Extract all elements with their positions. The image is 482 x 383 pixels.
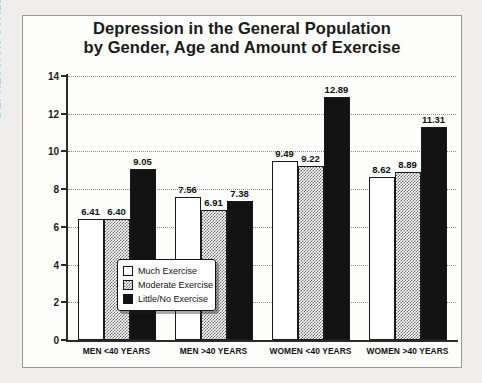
bar-value-label: 8.89 [398, 159, 417, 170]
bar-value-label: 8.62 [372, 164, 391, 175]
y-axis-tick-label: 4 [53, 259, 59, 270]
bar-value-label: 12.89 [325, 84, 349, 95]
y-axis-tick-label: 2 [53, 297, 59, 308]
bar-value-label: 9.05 [133, 156, 152, 167]
bar-moderate: 8.89 [395, 172, 421, 340]
y-axis-tick [61, 150, 68, 152]
bar-value-label: 7.38 [230, 188, 249, 199]
legend-item-little-no-exercise: Little/No Exercise [123, 292, 210, 306]
bar-little: 9.05 [130, 169, 156, 340]
bar-value-label: 6.91 [204, 197, 223, 208]
bar-much: 8.62 [369, 177, 395, 340]
chart-screenshot: Depression in the General Population by … [0, 0, 482, 383]
y-axis-tick-label: 6 [53, 221, 59, 232]
y-axis-tick-label: 14 [48, 71, 59, 82]
y-axis-tick [61, 75, 68, 77]
bar-value-label: 6.40 [107, 206, 126, 217]
legend-label-moderate-exercise: Moderate Exercise [138, 280, 213, 290]
y-axis-tick [61, 188, 68, 190]
y-axis-tick [61, 339, 68, 341]
bar-moderate: 9.22 [298, 166, 324, 340]
chart-legend: Much Exercise Moderate Exercise Little/N… [117, 259, 216, 311]
x-axis-category-label: WOMEN <40 YEARS [262, 346, 359, 356]
bar-value-label: 9.22 [301, 153, 320, 164]
bar-little: 7.38 [227, 201, 253, 340]
legend-item-moderate-exercise: Moderate Exercise [123, 278, 210, 292]
y-axis-tick-label: 8 [53, 184, 59, 195]
y-axis-tick-label: 12 [48, 108, 59, 119]
bar-value-label: 6.41 [81, 206, 100, 217]
y-axis-tick [61, 264, 68, 266]
bar-much: 6.41 [78, 219, 104, 340]
bar-little: 12.89 [324, 97, 350, 340]
legend-label-little-no-exercise: Little/No Exercise [138, 294, 208, 304]
bar-little: 11.31 [421, 127, 447, 340]
y-axis-tick-label: 10 [48, 146, 59, 157]
bar-value-label: 9.49 [275, 148, 294, 159]
y-axis-label: DEPRESSION SCALE [0, 0, 2, 118]
x-axis-category-label: MEN >40 YEARS [165, 346, 262, 356]
bar-group: 8.628.8911.31 [369, 76, 447, 340]
y-axis-tick-label: 0 [53, 335, 59, 346]
legend-swatch-much-exercise [123, 266, 133, 276]
chart-title-line-1: Depression in the General Population [93, 19, 391, 37]
y-axis-tick [61, 113, 68, 115]
bar-much: 9.49 [272, 161, 298, 340]
bar-group: 9.499.2212.89 [272, 76, 350, 340]
legend-item-much-exercise: Much Exercise [123, 264, 210, 278]
legend-label-much-exercise: Much Exercise [138, 266, 197, 276]
chart-title-line-2: by Gender, Age and Amount of Exercise [22, 38, 462, 57]
chart-title: Depression in the General Population by … [22, 19, 462, 57]
legend-swatch-moderate-exercise [123, 280, 133, 290]
bar-value-label: 11.31 [422, 114, 445, 125]
x-axis-line [66, 340, 458, 342]
y-axis-tick [61, 301, 68, 303]
bar-value-label: 7.56 [178, 184, 197, 195]
legend-swatch-little-no-exercise [123, 294, 133, 304]
x-axis-category-label: MEN <40 YEARS [68, 346, 165, 356]
x-axis-category-label: WOMEN >40 YEARS [359, 346, 456, 356]
y-axis-tick [61, 226, 68, 228]
